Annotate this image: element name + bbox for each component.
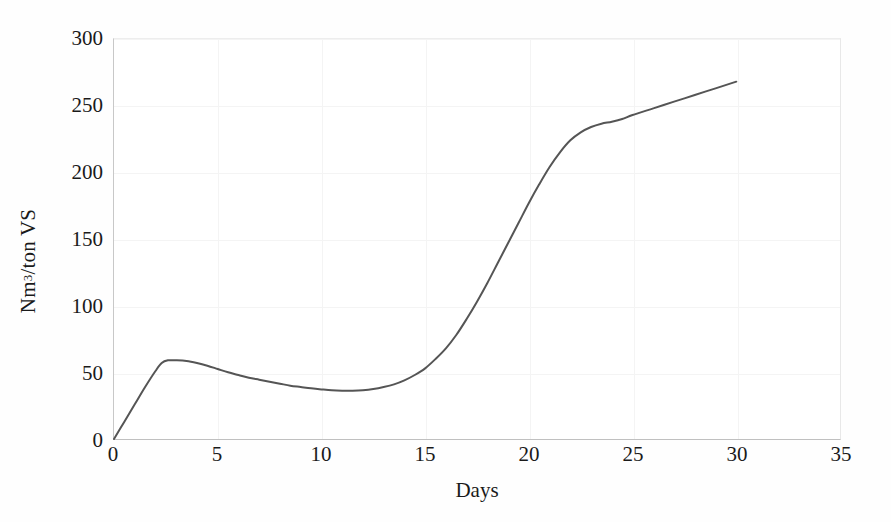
chart-figure: Nm3/ton VS 050100150200250300 0510152025…	[0, 0, 891, 522]
x-tick-label: 35	[831, 444, 852, 465]
x-tick-label: 20	[519, 444, 540, 465]
data-line-svg	[114, 39, 840, 439]
y-axis-tick-labels: 050100150200250300	[0, 38, 103, 440]
plot-area	[113, 38, 841, 440]
y-tick-label: 200	[0, 162, 103, 183]
x-tick-label: 15	[415, 444, 436, 465]
series-line-cumulative-biogas-yield	[114, 82, 736, 439]
x-axis-title: Days	[113, 478, 841, 503]
x-tick-label: 25	[623, 444, 644, 465]
x-tick-label: 30	[727, 444, 748, 465]
x-axis-tick-labels: 05101520253035	[113, 444, 841, 474]
y-tick-label: 300	[0, 28, 103, 49]
x-tick-label: 10	[311, 444, 332, 465]
y-tick-label: 100	[0, 296, 103, 317]
x-tick-label: 5	[212, 444, 223, 465]
y-tick-label: 0	[0, 430, 103, 451]
x-tick-label: 0	[108, 444, 119, 465]
y-tick-label: 150	[0, 229, 103, 250]
y-tick-label: 50	[0, 363, 103, 384]
y-tick-label: 250	[0, 95, 103, 116]
